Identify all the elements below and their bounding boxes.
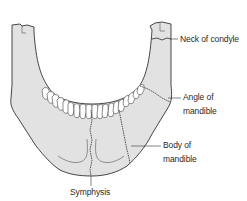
label-angle-of-mandible-1: Angle of xyxy=(183,92,213,102)
label-symphysis: Symphysis xyxy=(70,187,110,197)
label-neck-of-condyle: Neck of condyle xyxy=(180,34,239,44)
mandible-bone xyxy=(11,22,172,176)
label-body-of-mandible-2: mandible xyxy=(163,154,197,164)
label-angle-of-mandible-2: mandible xyxy=(183,106,217,116)
label-body-of-mandible-1: Body of xyxy=(163,140,191,150)
mandible-diagram: Neck of condyle Angle of mandible Body o… xyxy=(0,0,247,201)
